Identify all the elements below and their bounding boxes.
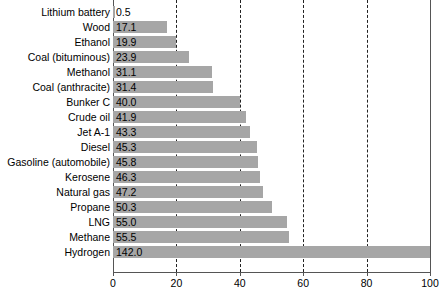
x-axis-tick [367, 272, 368, 276]
x-axis-tick-label: 0 [110, 277, 116, 289]
category-label: Natural gas [56, 185, 110, 200]
x-axis-tick-label: 20 [171, 277, 183, 289]
bar-value-label: 43.3 [116, 125, 136, 140]
category-label: Crude oil [68, 110, 110, 125]
bar-value-label: 40.0 [116, 95, 136, 110]
category-label: Ethanol [74, 35, 110, 50]
bar-cell: 31.1 [113, 65, 430, 80]
bar-value-label: 41.9 [116, 110, 136, 125]
bar-value-label: 45.8 [116, 155, 136, 170]
category-label: Kerosene [65, 170, 110, 185]
bar-cell: 19.9 [113, 35, 430, 50]
category-label: Coal (anthracite) [32, 80, 110, 95]
bar-value-label: 23.9 [116, 50, 136, 65]
category-label: Propane [70, 200, 110, 215]
bar-cell: 0.5 [113, 5, 430, 20]
bar-cell: 55.0 [113, 215, 430, 230]
bar-rows: Lithium battery0.5Wood17.1Ethanol19.9Coa… [0, 5, 445, 260]
bar-row: Coal (bituminous)23.9 [0, 50, 445, 65]
bar-row: Coal (anthracite)31.4 [0, 80, 445, 95]
x-axis-line [113, 272, 430, 273]
bar-cell: 31.4 [113, 80, 430, 95]
bar-row: Crude oil41.9 [0, 110, 445, 125]
bar-cell: 46.3 [113, 170, 430, 185]
x-axis-tick [113, 272, 114, 276]
bar [113, 6, 115, 18]
bar [113, 231, 289, 243]
bar-row: Jet A-143.3 [0, 125, 445, 140]
x-axis-tick [430, 272, 431, 276]
category-label: Methane [69, 230, 110, 245]
bar-value-label: 0.5 [116, 5, 131, 20]
bar-row: LNG55.0 [0, 215, 445, 230]
x-axis-tick-label: 100 [421, 277, 439, 289]
bar-value-label: 55.5 [116, 230, 136, 245]
category-label: Diesel [81, 140, 110, 155]
bar-cell: 47.2 [113, 185, 430, 200]
x-axis-tick-label: 40 [234, 277, 246, 289]
bar-value-label: 45.3 [116, 140, 136, 155]
bar [113, 201, 272, 213]
bar-row: Wood17.1 [0, 20, 445, 35]
bar-value-label: 19.9 [116, 35, 136, 50]
bar-cell: 142.0 [113, 245, 430, 260]
bar-cell: 43.3 [113, 125, 430, 140]
bar-row: Gasoline (automobile)45.8 [0, 155, 445, 170]
bar-row: Bunker C40.0 [0, 95, 445, 110]
category-label: Gasoline (automobile) [7, 155, 110, 170]
x-axis-tick [176, 272, 177, 276]
bar-cell: 17.1 [113, 20, 430, 35]
bar-row: Ethanol19.9 [0, 35, 445, 50]
bar-row: Methane55.5 [0, 230, 445, 245]
category-label: Coal (bituminous) [28, 50, 110, 65]
bar-cell: 55.5 [113, 230, 430, 245]
category-label: Wood [83, 20, 110, 35]
x-axis-tick [303, 272, 304, 276]
bar-cell: 23.9 [113, 50, 430, 65]
bar-row: Diesel45.3 [0, 140, 445, 155]
x-axis: 020406080100 [113, 272, 430, 294]
bar-value-label: 55.0 [116, 215, 136, 230]
bar-value-label: 31.4 [116, 80, 136, 95]
category-label: Methanol [67, 65, 110, 80]
bar-value-label: 31.1 [116, 65, 136, 80]
bar-cell: 45.3 [113, 140, 430, 155]
bar-row: Lithium battery0.5 [0, 5, 445, 20]
x-axis-tick [240, 272, 241, 276]
bar-row: Methanol31.1 [0, 65, 445, 80]
bar-value-label: 47.2 [116, 185, 136, 200]
bar-cell: 41.9 [113, 110, 430, 125]
bar-value-label: 50.3 [116, 200, 136, 215]
bar-cell: 45.8 [113, 155, 430, 170]
bar-value-label: 17.1 [116, 20, 136, 35]
category-label: Lithium battery [41, 5, 110, 20]
bar-row: Hydrogen142.0 [0, 245, 445, 260]
energy-density-bar-chart: Lithium battery0.5Wood17.1Ethanol19.9Coa… [0, 0, 445, 294]
category-label: LNG [88, 215, 110, 230]
x-axis-tick-label: 60 [297, 277, 309, 289]
bar-row: Propane50.3 [0, 200, 445, 215]
category-label: Bunker C [66, 95, 110, 110]
bar-value-label: 142.0 [116, 245, 142, 260]
bar-row: Natural gas47.2 [0, 185, 445, 200]
bar-cell: 50.3 [113, 200, 430, 215]
category-label: Hydrogen [64, 245, 110, 260]
x-axis-tick-label: 80 [361, 277, 373, 289]
bar-cell: 40.0 [113, 95, 430, 110]
bar-row: Kerosene46.3 [0, 170, 445, 185]
bar [113, 246, 430, 258]
bar-value-label: 46.3 [116, 170, 136, 185]
category-label: Jet A-1 [77, 125, 110, 140]
bar [113, 216, 287, 228]
